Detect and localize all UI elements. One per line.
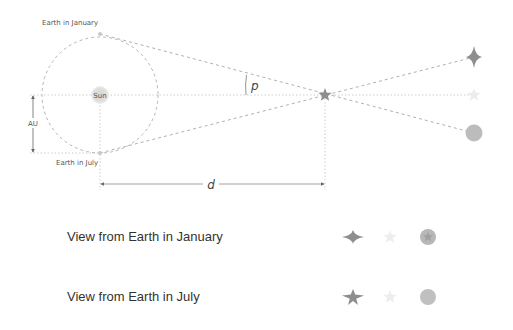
background-four-point-star-icon	[466, 46, 482, 68]
jan-four-point-star-icon	[342, 230, 364, 244]
sightline-july	[100, 57, 474, 153]
earth-july-dot	[98, 151, 102, 155]
earth-january-dot	[98, 32, 102, 36]
parallax-diagram: p Sun Earth in January Earth in July AU …	[0, 0, 513, 330]
background-circle-icon	[466, 125, 483, 142]
sightline-january	[100, 34, 474, 133]
au-label: AU	[28, 120, 38, 128]
parallax-label: p	[250, 79, 259, 93]
view-july-label: View from Earth in July	[67, 289, 200, 304]
parallax-arc	[246, 75, 247, 95]
jan-faint-star-icon	[383, 230, 396, 243]
view-january-label: View from Earth in January	[67, 229, 223, 244]
earth-july-label: Earth in July	[56, 159, 98, 167]
earth-january-label: Earth in January	[42, 19, 98, 27]
jul-faint-star-icon	[383, 290, 396, 303]
sun-label: Sun	[93, 92, 106, 100]
distance-label: d	[207, 178, 215, 192]
jul-star-icon	[342, 289, 364, 305]
background-faint-star-icon	[467, 88, 480, 101]
jul-circle-icon	[420, 289, 436, 305]
